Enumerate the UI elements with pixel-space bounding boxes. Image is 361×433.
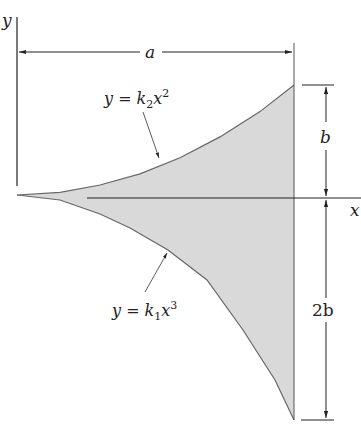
dimension-a-label: a [145, 42, 155, 62]
y-axis-label: y [1, 10, 12, 30]
upper-curve-leader [143, 112, 159, 158]
x-axis-label: x [350, 200, 360, 220]
upper-curve-equation: y = k2x2 [103, 87, 169, 111]
dimension-b-label: b [320, 127, 331, 147]
shaded-area [17, 85, 294, 420]
area-diagram: y x a b 2b y = k2x2 y = k1x3 [0, 0, 361, 433]
lower-curve-leader [145, 253, 167, 292]
lower-curve-equation: y = k1x3 [111, 299, 177, 323]
dimension-2b-label: 2b [312, 300, 334, 320]
